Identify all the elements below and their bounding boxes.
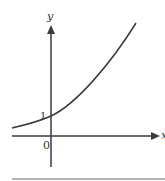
y-axis-label: y (47, 11, 53, 22)
y-intercept-label: 1 (40, 111, 46, 121)
function-curve (12, 23, 136, 128)
y-axis-arrow-icon (47, 25, 55, 34)
graph-canvas (0, 0, 165, 181)
origin-label: 0 (43, 140, 50, 151)
x-axis-arrow-icon (151, 132, 160, 140)
x-axis-label: x (161, 130, 165, 141)
